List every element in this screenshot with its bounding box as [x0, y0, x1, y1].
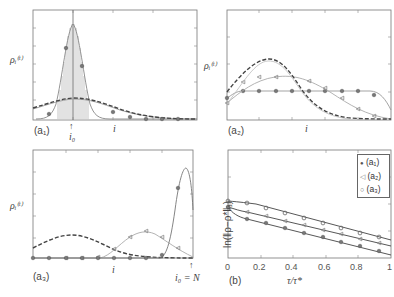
a3-arrow-icon: ↑ [189, 260, 194, 270]
a2-ylabel: ρᵢ⁽ᵗ⁾ [204, 60, 216, 71]
b-xtick-2: 0.4 [285, 262, 298, 272]
b-legend: ● (a₁) ◁ (a₂) ○ (a₃) [357, 154, 390, 198]
a3-i0-label: i₀ = N [175, 272, 200, 283]
a3-ylabel: ρᵢ⁽ᵗ⁾ [10, 200, 22, 211]
panel-a1 [33, 10, 197, 121]
legend-item-a1: ● (a₁) [360, 156, 387, 170]
b-ylabel: ln(‖ρ−ρ*‖₁) [222, 201, 233, 248]
triangle-marker-icon: ◁ [360, 173, 365, 180]
b-xtick-3: 0.6 [318, 262, 331, 272]
panel-a2 [225, 10, 391, 120]
a2-xlabel: i [305, 123, 308, 134]
legend-item-a2: ◁ (a₂) [360, 170, 387, 183]
figure [0, 0, 394, 297]
b-xtick-5: 1 [387, 262, 392, 272]
a3-xlabel: i [112, 264, 115, 275]
b-tag: (b) [229, 275, 241, 286]
a3-tag: (a₃) [33, 271, 49, 282]
b-xtick-4: 0.8 [350, 262, 363, 272]
a1-i0-label: i₀ [69, 131, 75, 142]
a1-ylabel: ρᵢ⁽ᵗ⁾ [10, 54, 22, 65]
legend-label-a3: (a₃) [367, 184, 381, 194]
a1-arrow-icon: ↑ [69, 121, 74, 131]
panel-a3 [31, 150, 193, 260]
a1-xlabel: i [113, 123, 116, 134]
legend-label-a2: (a₂) [367, 171, 381, 181]
b-xtick-0: 0 [225, 262, 230, 272]
a1-tag: (a₁) [34, 125, 50, 136]
b-xlabel: τ/τ* [287, 275, 302, 286]
legend-label-a1: (a₁) [366, 157, 379, 167]
open-circle-marker-icon: ○ [360, 186, 364, 193]
b-xtick-1: 0.2 [253, 262, 266, 272]
a2-tag: (a₂) [228, 125, 244, 136]
legend-item-a3: ○ (a₃) [360, 183, 387, 196]
filled-circle-marker-icon: ● [360, 160, 364, 166]
